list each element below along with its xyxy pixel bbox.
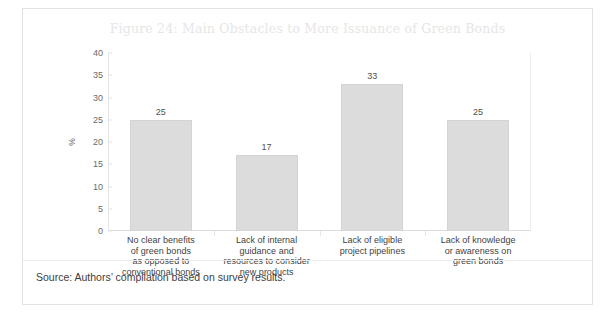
y-axis-tick-label: 30 [93, 93, 103, 103]
x-axis-category-label: Lack of eligibleproject pipelines [320, 235, 426, 277]
bar-value-label: 25 [473, 107, 483, 117]
category-label-line: of green bonds [110, 246, 212, 257]
category-label-line: guidance and [216, 246, 318, 257]
category-label-line: project pipelines [322, 246, 424, 257]
bar-series: 25173325 [108, 53, 531, 231]
category-label-line: No clear benefits [110, 235, 212, 246]
bar-value-label: 25 [156, 107, 166, 117]
y-axis-tick-label: 10 [93, 182, 103, 192]
x-axis-category-label: Lack of knowledgeor awareness ongreen bo… [425, 235, 531, 277]
source-note: Source: Authors’ compilation based on su… [36, 271, 285, 283]
source-divider [23, 260, 592, 261]
y-axis-tick-label: 25 [93, 115, 103, 125]
bar-rect[interactable] [341, 84, 403, 231]
bar-rect[interactable] [236, 155, 298, 231]
bar-chart: % 0510152025303540 25173325 [108, 53, 531, 231]
y-axis-tick-label: 35 [93, 70, 103, 80]
category-label-line: or awareness on [427, 246, 529, 257]
category-label-line: Lack of eligible [322, 235, 424, 246]
category-label-line: as opposed to [110, 256, 212, 267]
bar-rect[interactable] [130, 120, 192, 231]
bar-group: 33 [320, 53, 426, 231]
category-label-line: resources to consider [216, 256, 318, 267]
bar-value-label: 33 [367, 71, 377, 81]
figure-title: Figure 24: Main Obstacles to More Issuan… [23, 21, 592, 36]
bar-group: 25 [425, 53, 531, 231]
bar-rect[interactable] [447, 120, 509, 231]
category-label-line: Lack of knowledge [427, 235, 529, 246]
category-label-line: Lack of internal [216, 235, 318, 246]
category-label-line: green bonds [427, 256, 529, 267]
y-axis-tick-label: 0 [98, 226, 103, 236]
figure-card: Figure 24: Main Obstacles to More Issuan… [22, 8, 593, 305]
y-axis-tick-label: 5 [98, 204, 103, 214]
y-axis-tick-label: 20 [93, 137, 103, 147]
y-axis-tick-label: 40 [93, 48, 103, 58]
y-axis-label: % [67, 138, 77, 146]
bar-value-label: 17 [262, 142, 272, 152]
bar-group: 25 [108, 53, 214, 231]
y-axis-tick-label: 15 [93, 159, 103, 169]
bar-group: 17 [214, 53, 320, 231]
